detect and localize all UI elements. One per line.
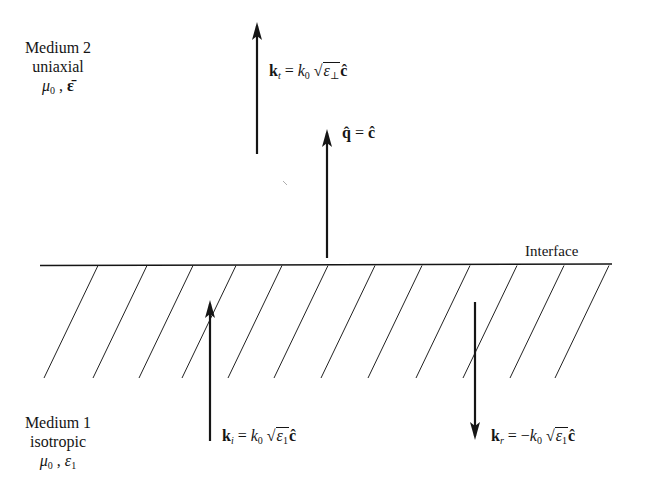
interface-label: Interface [525,244,578,259]
sqrt-symbol: √ε1 [546,427,568,446]
hatch-line [274,266,328,379]
hatch-line [463,266,517,379]
scan-artifact [283,181,287,185]
hatch-line [321,266,375,379]
hatch-line [510,266,564,379]
incident-wavevector-label: ki = k0 √ε1ĉ [222,427,296,446]
medium2-name: Medium 2 [0,40,118,56]
transmitted-wavevector-label: kt = k0 √ε⊥ĉ [269,62,347,81]
hatch-line [93,266,147,379]
medium2-params: μ0 , ε̄ [0,78,118,96]
hatch-line [555,266,609,379]
medium2-label: Medium 2 uniaxial μ0 , ε̄ [0,40,118,99]
medium1-name: Medium 1 [0,415,118,431]
reflected-wavevector-label: kr = −k0 √ε1ĉ [491,427,575,446]
hatch-line [44,266,98,379]
medium1-params: μ0 , ε1 [0,453,118,471]
hatch-line [228,266,282,379]
optic-axis-label: q̂ = ĉ [342,125,375,141]
hatch-line [139,266,193,379]
medium2-type: uniaxial [0,59,118,75]
medium1-label: Medium 1 isotropic μ0 , ε1 [0,415,118,474]
hatch-line [368,266,422,379]
medium1-hatching [44,266,609,379]
sqrt-symbol: √ε⊥ [314,62,341,81]
sqrt-symbol: √ε1 [267,427,289,446]
hatch-line [416,266,470,379]
interface-line [40,264,612,266]
medium1-type: isotropic [0,434,118,450]
